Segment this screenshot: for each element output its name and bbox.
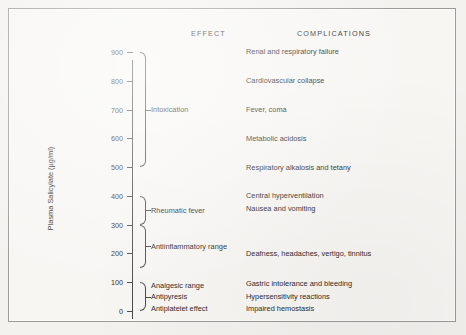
y-tick-600	[127, 138, 133, 139]
y-tick-label-800: 800	[97, 77, 123, 86]
y-tick-200	[127, 253, 133, 254]
y-tick-label-0: 0	[97, 307, 123, 316]
y-tick-label-700: 700	[97, 106, 123, 115]
effect-label-antipyresis: Antipyresis	[151, 292, 187, 301]
y-tick-900	[127, 52, 133, 53]
y-axis-line	[132, 60, 133, 319]
complication-label-central-hyperventilation: Central hyperventilation	[246, 191, 324, 200]
y-tick-500	[127, 167, 133, 168]
effect-label-antiinflammatory-range: Antiinflammatory range	[151, 242, 227, 251]
complication-label-deafness-headaches-vertigo-tinnitus: Deafness, headaches, vertigo, tinnitus	[246, 249, 371, 258]
y-tick-100	[127, 282, 133, 283]
complication-label-cardiovascular-collapse: Cardiovascular collapse	[246, 76, 324, 85]
y-axis-label: Plasma Salicylate (µg/ml)	[46, 109, 55, 269]
y-tick-label-200: 200	[97, 249, 123, 258]
complication-label-hypersensitivity-reactions: Hypersensitivity reactions	[246, 292, 330, 301]
complication-label-gastric-intolerance-and-bleeding: Gastric intolerance and bleeding	[246, 279, 352, 288]
y-tick-800	[127, 81, 133, 82]
complication-label-renal-and-respiratory-failure: Renal and respiratory failure	[246, 47, 339, 56]
column-header-complications: COMPLICATIONS	[297, 29, 371, 38]
y-tick-700	[127, 110, 133, 111]
effect-label-intoxication: Intoxication	[151, 105, 188, 114]
complication-label-fever-coma: Fever, coma	[246, 105, 287, 114]
effect-label-analgesic-range: Analgesic range	[151, 281, 204, 290]
y-tick-label-500: 500	[97, 163, 123, 172]
y-tick-label-100: 100	[97, 278, 123, 287]
y-tick-0	[127, 311, 133, 312]
y-tick-label-900: 900	[97, 48, 123, 57]
complication-label-metabolic-acidosis: Metabolic acidosis	[246, 134, 306, 143]
y-tick-label-400: 400	[97, 192, 123, 201]
complication-label-nausea-and-vomiting: Nausea and vomiting	[246, 204, 315, 213]
column-header-effect: EFFECT	[191, 29, 226, 38]
complication-label-impaired-hemostasis: Impaired hemostasis	[246, 304, 314, 313]
complication-label-respiratory-alkalosis-and-tetany: Respiratory alkalosis and tetany	[246, 163, 351, 172]
y-tick-label-600: 600	[97, 134, 123, 143]
y-tick-label-300: 300	[97, 221, 123, 230]
y-tick-300	[127, 225, 133, 226]
y-tick-400	[127, 196, 133, 197]
figure-frame: EFFECT COMPLICATIONS Plasma Salicylate (…	[8, 8, 456, 322]
salicylate-effects-figure: EFFECT COMPLICATIONS Plasma Salicylate (…	[0, 0, 466, 335]
effect-label-antiplatelet-effect: Antiplatelet effect	[151, 304, 208, 313]
effect-label-rheumatic-fever: Rheumatic fever	[151, 206, 205, 215]
